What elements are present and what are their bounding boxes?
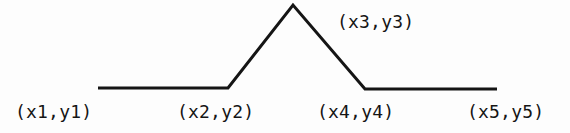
point-label-x3y3: (x3,y3) [337, 12, 414, 32]
point-label-x4y4: (x4,y4) [317, 102, 394, 122]
point-label-x1y1: (x1,y1) [15, 102, 92, 122]
point-label-x5y5: (x5,y5) [467, 102, 544, 122]
polyline-path [98, 5, 497, 89]
point-label-x2y2: (x2,y2) [177, 102, 254, 122]
polyline-figure: (x1,y1) (x2,y2) (x3,y3) (x4,y4) (x5,y5) [0, 0, 570, 133]
